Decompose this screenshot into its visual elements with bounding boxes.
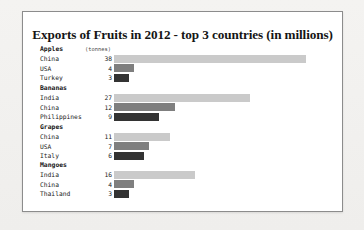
group-title: Apples xyxy=(40,45,63,53)
value-label: 7 xyxy=(83,143,112,150)
group-title: Grapes xyxy=(40,123,63,131)
value-label: 16 xyxy=(83,171,112,178)
chart-row: India16 xyxy=(23,171,344,180)
country-label: Italy xyxy=(40,152,59,159)
value-label: 11 xyxy=(83,133,112,140)
chart-row: USA4 xyxy=(23,64,344,73)
bar xyxy=(114,74,129,82)
value-label: 3 xyxy=(83,74,112,81)
country-label: Philippines xyxy=(40,113,82,120)
bar xyxy=(114,190,129,198)
value-label: 4 xyxy=(83,65,112,72)
country-label: China xyxy=(40,133,59,140)
country-label: Thailand xyxy=(40,190,70,197)
chart-row: India27 xyxy=(23,94,344,103)
bar xyxy=(114,113,159,121)
chart-row: China4 xyxy=(23,180,344,189)
country-label: China xyxy=(40,55,59,62)
chart-row: China11 xyxy=(23,133,344,142)
chart-row: Turkey3 xyxy=(23,74,344,83)
country-label: China xyxy=(40,181,59,188)
chart-row: China38 xyxy=(23,55,344,64)
chart-row: Italy6 xyxy=(23,152,344,161)
chart-frame: Exports of Fruits in 2012 - top 3 countr… xyxy=(22,11,343,212)
value-label: 9 xyxy=(83,113,112,120)
bar xyxy=(114,171,195,179)
bar xyxy=(114,133,170,141)
group-title: Mangoes xyxy=(40,161,67,169)
bar xyxy=(114,142,149,150)
chart-row: Philippines9 xyxy=(23,113,344,122)
country-label: India xyxy=(40,171,59,178)
value-label: 4 xyxy=(83,181,112,188)
value-label: 6 xyxy=(83,152,112,159)
units-label: (tonnes) xyxy=(85,46,111,52)
value-label: 3 xyxy=(83,190,112,197)
bar xyxy=(114,64,134,72)
value-label: 12 xyxy=(83,104,112,111)
country-label: India xyxy=(40,94,59,101)
country-label: China xyxy=(40,104,59,111)
plot-area: Apples(tonnes)China38USA4Turkey3BananasI… xyxy=(23,45,344,211)
value-label: 38 xyxy=(83,55,112,62)
bar xyxy=(114,94,250,102)
chart-row: China12 xyxy=(23,103,344,112)
bar xyxy=(114,152,144,160)
chart-title: Exports of Fruits in 2012 - top 3 countr… xyxy=(23,27,342,43)
chart-row: Thailand3 xyxy=(23,190,344,199)
screenshot-root: Exports of Fruits in 2012 - top 3 countr… xyxy=(0,0,364,230)
country-label: Turkey xyxy=(40,74,63,81)
bar xyxy=(114,180,134,188)
group-title: Bananas xyxy=(40,84,67,92)
value-label: 27 xyxy=(83,94,112,101)
bar xyxy=(114,103,175,111)
country-label: USA xyxy=(40,143,51,150)
bar xyxy=(114,55,306,63)
chart-row: USA7 xyxy=(23,142,344,151)
country-label: USA xyxy=(40,65,51,72)
